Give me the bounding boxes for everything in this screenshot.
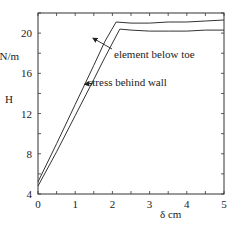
- plot-border: [38, 13, 224, 194]
- x-tick-label: 5: [221, 198, 227, 210]
- data-series: [38, 20, 224, 186]
- annotations: element below toestress behind wall: [85, 38, 195, 88]
- y-tick-label: 12: [21, 108, 32, 120]
- annotation-stress-behind-wall: stress behind wall: [88, 76, 167, 88]
- plot-frame: [38, 13, 224, 194]
- x-tick-label: 2: [110, 198, 116, 210]
- chart: 01234548121620 element below toestress b…: [0, 0, 231, 225]
- y-tick-label: 16: [21, 67, 33, 79]
- y-tick-label: 20: [21, 27, 33, 39]
- x-tick-label: 1: [72, 198, 78, 210]
- y-tick-label: 8: [27, 148, 33, 160]
- x-axis-label: δ cm: [160, 208, 182, 220]
- series-element-below-toe: [38, 20, 224, 182]
- x-tick-label: 4: [184, 198, 190, 210]
- annotation-element-below-toe: element below toe: [114, 48, 195, 60]
- y-tick-label: 4: [27, 188, 33, 200]
- y-axis-unit: kN/m: [0, 50, 20, 62]
- x-tick-label: 3: [147, 198, 153, 210]
- y-axis-label: H: [5, 93, 13, 105]
- axis-ticks: [38, 13, 224, 194]
- x-tick-label: 0: [35, 198, 41, 210]
